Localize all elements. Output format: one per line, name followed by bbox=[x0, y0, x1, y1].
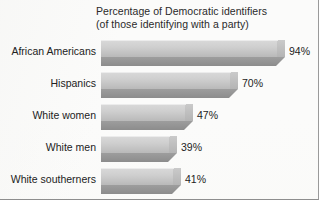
bar-row: African Americans 94% bbox=[0, 38, 319, 70]
bar-container bbox=[101, 72, 238, 98]
bar-shadow-face bbox=[101, 153, 177, 162]
bar-row: Hispanics 70% bbox=[0, 70, 319, 102]
chart-title-block: Percentage of Democratic identifiers (of… bbox=[96, 5, 311, 31]
bar-shape bbox=[101, 136, 177, 162]
bar-shape bbox=[101, 40, 285, 66]
chart-subtitle: (of those identifying with a party) bbox=[96, 18, 311, 31]
bar-category-label: Hispanics bbox=[50, 77, 96, 90]
bar-highlight bbox=[101, 72, 231, 73]
chart-title: Percentage of Democratic identifiers bbox=[96, 5, 311, 18]
bar-shadow-face bbox=[101, 57, 285, 66]
bar-value-label: 47% bbox=[197, 109, 218, 122]
bar-highlight bbox=[101, 104, 186, 105]
bar-shape bbox=[101, 72, 238, 98]
bar-top-face bbox=[101, 40, 278, 57]
bar-category-label: White southerners bbox=[11, 173, 96, 186]
bar-value-label: 41% bbox=[185, 173, 206, 186]
bar-value-label: 70% bbox=[242, 77, 263, 90]
bar-shadow-face bbox=[101, 89, 238, 98]
bar-row: White southerners 41% bbox=[0, 166, 319, 198]
bar-shadow-face bbox=[101, 121, 193, 130]
bar-rows: African Americans 94% Hispanics bbox=[0, 38, 319, 198]
bar-value-label: 39% bbox=[181, 141, 202, 154]
bar-container bbox=[101, 40, 285, 66]
bar-highlight bbox=[101, 136, 170, 137]
bar-container bbox=[101, 104, 193, 130]
bar-highlight bbox=[101, 40, 278, 41]
bar-end-cap bbox=[277, 40, 285, 57]
bar-top-face bbox=[101, 136, 170, 153]
bar-highlight bbox=[101, 168, 174, 169]
bar-category-label: African Americans bbox=[11, 45, 96, 58]
bar-end-cap bbox=[169, 136, 177, 153]
bar-end-cap bbox=[185, 104, 193, 121]
bar-row: White men 39% bbox=[0, 134, 319, 166]
bar-container bbox=[101, 168, 181, 194]
bar-top-face bbox=[101, 72, 231, 89]
bar-chart: Percentage of Democratic identifiers (of… bbox=[0, 0, 319, 200]
bar-category-label: White men bbox=[46, 141, 96, 154]
bar-end-cap bbox=[173, 168, 181, 185]
bar-row: White women 47% bbox=[0, 102, 319, 134]
bar-top-face bbox=[101, 104, 186, 121]
bar-top-face bbox=[101, 168, 174, 185]
bar-shape bbox=[101, 168, 181, 194]
bar-value-label: 94% bbox=[289, 45, 310, 58]
bar-shadow-face bbox=[101, 185, 181, 194]
bar-container bbox=[101, 136, 177, 162]
bar-shape bbox=[101, 104, 193, 130]
bar-end-cap bbox=[230, 72, 238, 89]
bar-category-label: White women bbox=[32, 109, 96, 122]
